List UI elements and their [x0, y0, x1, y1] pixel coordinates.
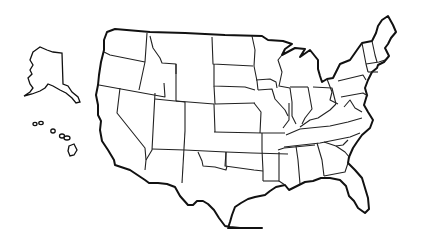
- alaska-shape: [24, 47, 80, 103]
- contiguous-us-outline: [96, 16, 396, 228]
- hawaii-islands: [33, 121, 77, 156]
- us-states-outline-map: [0, 0, 441, 245]
